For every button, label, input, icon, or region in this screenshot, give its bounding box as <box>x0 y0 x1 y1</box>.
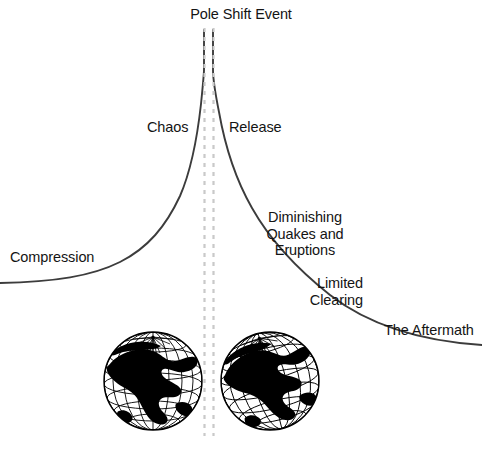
label-chaos: Chaos <box>147 119 188 136</box>
label-limited-clearing: Limited Clearing <box>271 275 363 308</box>
curve-left-branch <box>0 30 204 283</box>
label-diminishing-quakes-and-eruptions: Diminishing Quakes and Eruptions <box>252 209 358 259</box>
pole-shift-diagram: Pole Shift Event Chaos Release Compressi… <box>0 0 482 454</box>
globe-before-icon <box>104 332 202 430</box>
label-the-aftermath: The Aftermath <box>384 322 474 339</box>
label-compression: Compression <box>10 249 94 266</box>
globe-after-icon <box>211 322 330 441</box>
label-pole-shift-event: Pole Shift Event <box>0 6 482 23</box>
diagram-canvas <box>0 0 482 454</box>
label-release: Release <box>229 119 282 136</box>
